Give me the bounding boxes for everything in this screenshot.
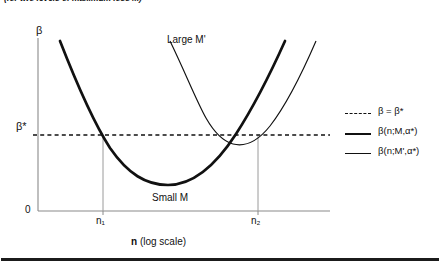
annotation-small-m: Small M — [152, 192, 188, 203]
series-large-m-curve — [170, 41, 316, 145]
legend-label-large-m: β(n;M',α*) — [378, 145, 419, 156]
y-tick-label-beta-star: β* — [16, 120, 27, 132]
x-axis-title-symbol: n — [131, 236, 137, 247]
legend-item-beta-star: β = β* — [345, 104, 440, 124]
legend-label-small-m: β(n;M,α*) — [378, 125, 417, 136]
y-axis-title: β — [36, 24, 42, 36]
legend-item-large-m: β(n;M',α*) — [345, 144, 440, 164]
legend-swatch-thick-icon — [345, 133, 371, 135]
legend-swatch-dashed-icon — [345, 113, 371, 114]
figure-caption: (for two levels of maximum loss M) — [4, 0, 142, 3]
series-small-m-curve — [60, 41, 285, 185]
figure-panel: β β* 0 n₁ n₂ n (log scale) Large M' Smal… — [0, 8, 441, 253]
bottom-horizontal-rule — [1, 258, 439, 261]
x-axis-title: n (log scale) — [131, 236, 186, 247]
x-axis-title-scale: (log scale) — [140, 236, 186, 247]
x-tick-label-n1: n₁ — [96, 215, 105, 226]
annotation-large-m: Large M' — [167, 34, 206, 45]
y-tick-label-zero: 0 — [25, 204, 31, 215]
x-tick-label-n2: n₂ — [251, 215, 260, 226]
chart-legend: β = β* β(n;M,α*) β(n;M',α*) — [345, 104, 440, 164]
legend-swatch-thin-icon — [345, 153, 371, 154]
legend-item-small-m: β(n;M,α*) — [345, 124, 440, 144]
legend-label-beta-star: β = β* — [378, 105, 403, 116]
